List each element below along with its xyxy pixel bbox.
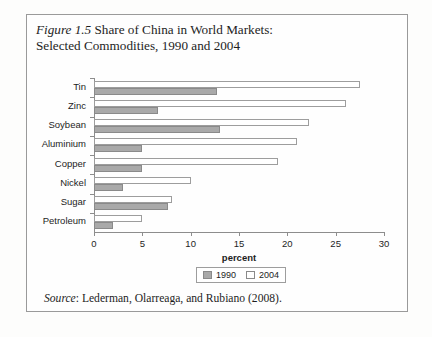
bar-2004 [94,177,191,184]
bar-chart: TinZincSoybeanAluminiumCopperNickelSugar… [94,78,384,232]
bar-row: Copper [94,155,384,174]
y-axis-label: Tin [73,81,86,92]
y-axis-tick [90,136,94,137]
bar-row: Soybean [94,117,384,136]
y-axis-label: Soybean [48,119,86,130]
y-axis-label: Petroleum [43,215,86,226]
y-axis-label: Aluminium [42,138,86,149]
bar-1990 [94,165,142,172]
figure-title-text: Share of China in World Markets: [91,22,273,37]
x-axis-tick [287,232,288,236]
x-axis-tick [384,232,385,236]
bar-2004 [94,196,172,203]
bar-row: Petroleum [94,213,384,232]
y-axis-tick [90,78,94,79]
x-axis-tick-label: 30 [379,238,390,249]
y-axis-label: Zinc [68,100,86,111]
source-text: : Lederman, Olarreaga, and Rubiano (2008… [76,292,282,305]
x-axis-tick [336,232,337,236]
bar-row: Zinc [94,97,384,116]
x-axis-tick [191,232,192,236]
bar-1990 [94,145,142,152]
figure-number: Figure 1.5 [36,22,91,37]
legend-label-1990: 1990 [216,270,236,280]
x-axis-tick [239,232,240,236]
y-axis-label: Nickel [60,177,86,188]
figure-page: Figure 1.5 Share of China in World Marke… [0,0,432,337]
y-axis-tick [90,117,94,118]
bar-2004 [94,100,346,107]
bar-1990 [94,126,220,133]
source-note: Source: Lederman, Olarreaga, and Rubiano… [44,292,282,305]
x-axis-tick-label: 0 [91,238,96,249]
x-axis-tick-label: 20 [282,238,293,249]
y-axis-label: Copper [55,158,86,169]
bar-2004 [94,158,278,165]
y-axis-tick [90,97,94,98]
y-axis-tick [90,155,94,156]
bar-row: Nickel [94,174,384,193]
x-axis-tick-label: 5 [140,238,145,249]
x-axis-title: percent [94,252,384,263]
bar-1990 [94,203,168,210]
y-axis-label: Sugar [61,196,86,207]
legend-swatch-1990 [203,271,212,279]
bar-2004 [94,215,142,222]
legend-item-2004: 2004 [246,270,279,280]
x-axis-tick [142,232,143,236]
bar-2004 [94,138,297,145]
x-axis-tick-label: 25 [330,238,341,249]
y-axis-tick [90,194,94,195]
bar-row: Tin [94,78,384,97]
bar-row: Sugar [94,194,384,213]
figure-subtitle: Selected Commodities, 1990 and 2004 [36,38,240,53]
bar-1990 [94,107,158,114]
y-axis-tick [90,213,94,214]
chart-legend: 1990 2004 [196,267,286,283]
source-label: Source [44,292,76,305]
y-axis-tick [90,174,94,175]
x-axis-tick-label: 15 [234,238,245,249]
legend-label-2004: 2004 [259,270,279,280]
x-axis-tick-label: 10 [185,238,196,249]
bar-1990 [94,222,113,229]
bar-1990 [94,184,123,191]
bar-2004 [94,81,360,88]
x-axis-tick [94,232,95,236]
bar-2004 [94,119,309,126]
bar-row: Aluminium [94,136,384,155]
legend-swatch-2004 [246,271,255,279]
legend-item-1990: 1990 [203,270,236,280]
bar-1990 [94,88,217,95]
figure-title: Figure 1.5 Share of China in World Marke… [36,22,366,54]
